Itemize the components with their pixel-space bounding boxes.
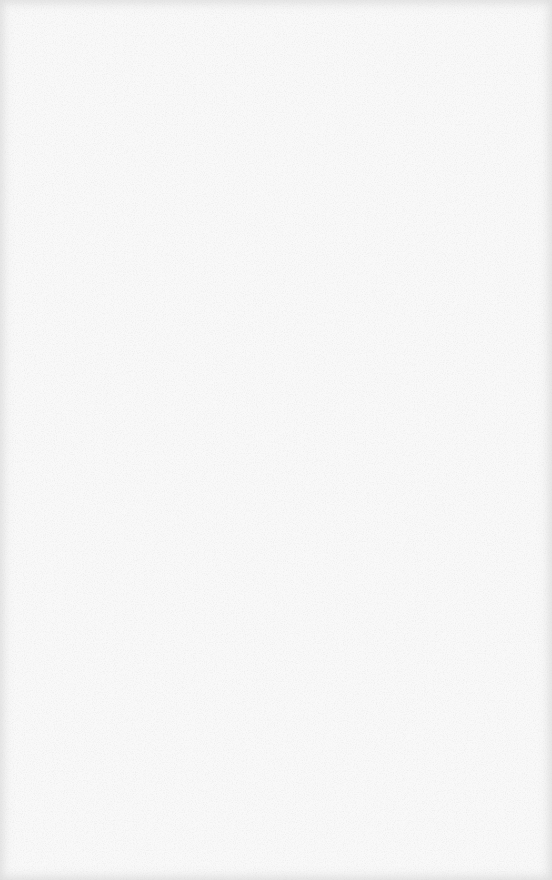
blank-canvas bbox=[0, 0, 552, 880]
grain-texture bbox=[0, 0, 552, 880]
